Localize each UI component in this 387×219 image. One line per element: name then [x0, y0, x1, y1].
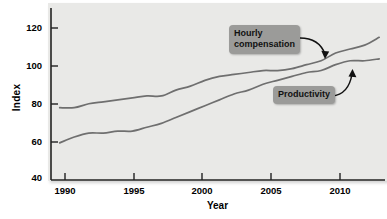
chart-figure: 120 100 80 60 40 1990 1995 2000 2005 201…: [0, 0, 387, 219]
x-tick-label-2000: 2000: [182, 185, 222, 196]
callout-productivity: Productivity: [273, 86, 335, 104]
arrow-hourly-compensation: [300, 38, 325, 54]
y-tick-label-40: 40: [14, 172, 42, 183]
y-axis-title: Index: [11, 68, 22, 128]
x-tick-label-1990: 1990: [45, 185, 85, 196]
y-tick-label-120: 120: [14, 22, 42, 33]
x-tick-marks: [65, 173, 340, 180]
x-tick-label-2010: 2010: [320, 185, 360, 196]
y-tick-marks: [51, 28, 58, 142]
x-axis-title: Year: [48, 200, 387, 211]
x-tick-label-2005: 2005: [251, 185, 291, 196]
y-tick-label-60: 60: [14, 136, 42, 147]
x-tick-label-1995: 1995: [114, 185, 154, 196]
arrowhead-productivity: [349, 69, 357, 77]
callout-hourly-compensation: Hourly compensation: [229, 25, 300, 54]
